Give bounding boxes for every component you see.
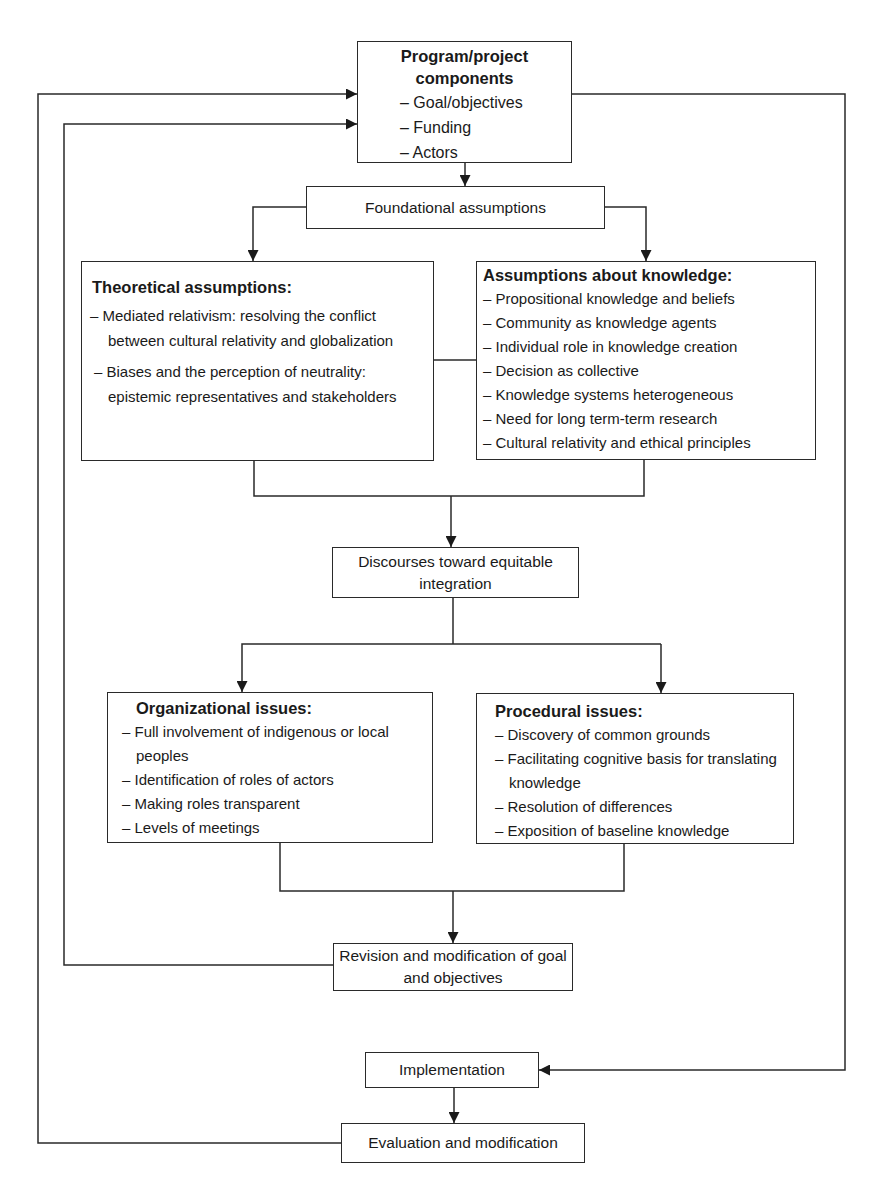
foundational-assumptions-box: Foundational assumptions bbox=[306, 186, 605, 229]
list-item: Goal/objectives bbox=[400, 90, 571, 115]
theoretical-assumptions-list: Mediated relativism: resolving the confl… bbox=[90, 303, 425, 409]
connector-layer bbox=[0, 0, 886, 1202]
procedural-issues-box: Procedural issues: Discovery of common g… bbox=[476, 693, 794, 844]
procedural-issues-list: Discovery of common grounds Facilitating… bbox=[495, 723, 785, 843]
list-item: Mediated relativism: resolving the confl… bbox=[90, 303, 425, 353]
edge-foundational-to-theoretical bbox=[253, 207, 306, 261]
list-item: Facilitating cognitive basis for transla… bbox=[495, 747, 785, 795]
edge-assumptions-merge bbox=[254, 460, 644, 496]
theoretical-assumptions-title: Theoretical assumptions: bbox=[90, 276, 425, 299]
list-item: Cultural relativity and ethical principl… bbox=[483, 431, 811, 455]
organizational-issues-box: Organizational issues: Full involvement … bbox=[107, 692, 433, 843]
knowledge-assumptions-box: Assumptions about knowledge: Proposition… bbox=[476, 261, 816, 460]
implementation-label: Implementation bbox=[399, 1059, 505, 1081]
organizational-issues-list: Full involvement of indigenous or local … bbox=[122, 720, 424, 840]
list-item: Levels of meetings bbox=[122, 816, 424, 840]
program-title-line1: Program/project bbox=[358, 45, 571, 67]
edge-foundational-to-knowledge bbox=[605, 207, 646, 261]
discourses-box: Discourses toward equitable integration bbox=[332, 547, 579, 598]
list-item: Making roles transparent bbox=[122, 792, 424, 816]
organizational-issues-title: Organizational issues: bbox=[122, 697, 424, 720]
edge-evaluation-to-program bbox=[38, 94, 357, 1143]
knowledge-assumptions-title: Assumptions about knowledge: bbox=[483, 264, 811, 287]
revision-label: Revision and modification of goal and ob… bbox=[338, 945, 568, 989]
program-components-box: Program/project components Goal/objectiv… bbox=[357, 41, 572, 163]
list-item: Funding bbox=[400, 115, 571, 140]
program-components-title: Program/project components bbox=[358, 45, 571, 89]
revision-box: Revision and modification of goal and ob… bbox=[333, 943, 573, 991]
list-item: Knowledge systems heterogeneous bbox=[483, 383, 811, 407]
evaluation-box: Evaluation and modification bbox=[341, 1123, 585, 1163]
discourses-label: Discourses toward equitable integration bbox=[339, 551, 572, 595]
theoretical-assumptions-box: Theoretical assumptions: Mediated relati… bbox=[81, 261, 434, 461]
procedural-issues-title: Procedural issues: bbox=[495, 700, 785, 723]
list-item: Individual role in knowledge creation bbox=[483, 335, 811, 359]
list-item: Resolution of differences bbox=[495, 795, 785, 819]
knowledge-assumptions-list: Propositional knowledge and beliefs Comm… bbox=[483, 287, 811, 455]
list-item: Need for long term-term research bbox=[483, 407, 811, 431]
program-components-list: Goal/objectives Funding Actors bbox=[400, 90, 571, 165]
list-item: Community as knowledge agents bbox=[483, 311, 811, 335]
edge-program-to-implementation bbox=[539, 94, 845, 1070]
list-item: Discovery of common grounds bbox=[495, 723, 785, 747]
edge-split-to-organizational bbox=[242, 644, 661, 692]
list-item: Decision as collective bbox=[483, 359, 811, 383]
evaluation-label: Evaluation and modification bbox=[368, 1132, 558, 1154]
program-title-line2: components bbox=[358, 67, 571, 89]
list-item: Biases and the perception of neutrality:… bbox=[90, 359, 425, 409]
list-item: Full involvement of indigenous or local … bbox=[122, 720, 424, 768]
list-item: Propositional knowledge and beliefs bbox=[483, 287, 811, 311]
implementation-box: Implementation bbox=[365, 1052, 539, 1088]
list-item: Actors bbox=[400, 140, 571, 165]
list-item: Exposition of baseline knowledge bbox=[495, 819, 785, 843]
foundational-assumptions-label: Foundational assumptions bbox=[365, 197, 546, 219]
edge-issues-merge bbox=[280, 843, 624, 891]
list-item: Identification of roles of actors bbox=[122, 768, 424, 792]
